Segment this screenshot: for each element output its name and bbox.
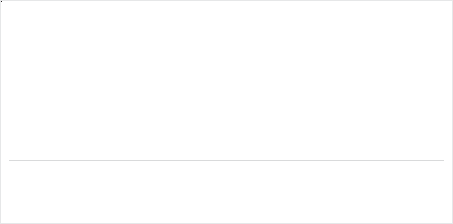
highlight-box-south-korea bbox=[0, 0, 2, 2]
chart-page bbox=[0, 0, 453, 224]
plot-area bbox=[9, 30, 444, 160]
bar-columns bbox=[9, 30, 444, 160]
x-axis-line bbox=[9, 160, 444, 161]
